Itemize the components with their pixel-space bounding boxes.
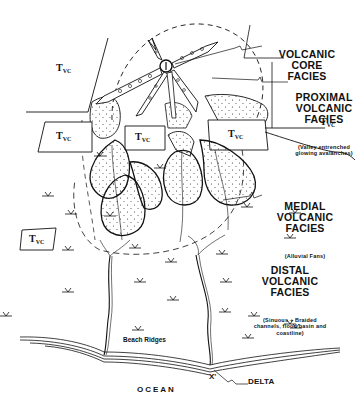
label-sub: (Valley entrenched glowing avalanches) xyxy=(286,144,362,157)
tvc-label-lower-left: TVC xyxy=(29,233,44,245)
tvc-label-left: TVC xyxy=(56,130,71,142)
tvc-base: T xyxy=(320,116,327,127)
label-main: DELTA xyxy=(248,378,274,386)
tvc-label-center: TVC xyxy=(135,131,150,143)
tvc-sub: VC xyxy=(63,136,72,142)
label-x-mark: X' xyxy=(209,372,216,381)
distal-channels xyxy=(100,235,225,365)
tvc-base: T xyxy=(29,233,36,244)
tvc-base: T xyxy=(56,130,63,141)
tvc-sub: VC xyxy=(235,134,244,140)
tvc-label-right: TVC xyxy=(228,128,243,140)
tvc-sub: VC xyxy=(36,239,45,245)
tvc-sub: VC xyxy=(63,68,72,74)
tvc-sub: VC xyxy=(142,137,151,143)
label-ocean: OCEAN xyxy=(137,386,176,394)
label-main: MEDIAL VOLCANIC FACIES xyxy=(272,201,338,234)
label-main: DISTAL VOLCANIC FACIES xyxy=(252,265,328,298)
label-main: OCEAN xyxy=(137,386,176,394)
label-sub: (Sinuous + Braided channels, flood basin… xyxy=(252,317,328,337)
label-beach-ridges: Beach Ridges xyxy=(123,336,166,343)
tvc-base: T xyxy=(56,62,63,73)
tvc-base: T xyxy=(228,128,235,139)
tvc-sub: VC xyxy=(327,122,336,128)
tvc-label-far-right: TVC xyxy=(320,116,335,128)
label-delta: DELTA xyxy=(248,378,274,386)
tvc-label-upper-left: TVC xyxy=(56,62,71,74)
label-distal-volcanic-facies: DISTAL VOLCANIC FACIES (Sinuous + Braide… xyxy=(252,248,328,353)
tvc-base: T xyxy=(135,131,142,142)
